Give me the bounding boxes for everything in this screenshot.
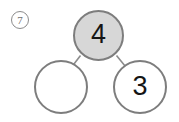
bond-part-right-value: 3 (132, 71, 147, 102)
bond-total-value: 4 (91, 19, 106, 50)
bond-node-total[interactable]: 4 (73, 10, 124, 61)
number-bond-worksheet: 7 4 3 (0, 0, 179, 122)
bond-node-part-right[interactable]: 3 (113, 60, 167, 114)
bond-node-part-left[interactable] (34, 60, 88, 114)
